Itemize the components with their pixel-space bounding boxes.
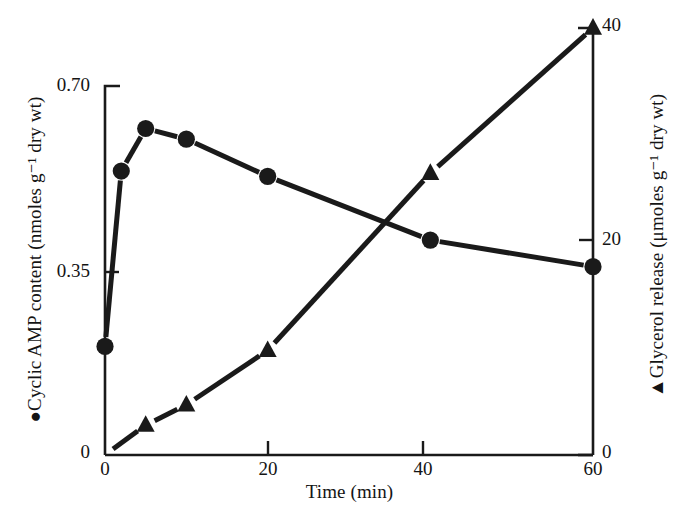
data-point-triangle xyxy=(421,163,439,180)
plot-area xyxy=(0,0,673,521)
data-point-circle xyxy=(137,120,154,137)
data-point-triangle xyxy=(584,18,602,35)
data-point-circle xyxy=(96,338,113,355)
data-point-triangle xyxy=(259,340,277,357)
series-segment xyxy=(113,431,138,449)
data-point-triangle xyxy=(137,415,155,432)
series-segment xyxy=(126,137,141,163)
y-left-tick-label-035: 0.35 xyxy=(18,260,90,282)
y-right-tick-label-20: 20 xyxy=(602,228,662,250)
data-point-circle xyxy=(178,131,195,148)
data-series-layer xyxy=(96,18,602,449)
series-segment xyxy=(155,409,178,420)
series-cyclic-amp xyxy=(96,120,601,355)
data-point-circle xyxy=(259,168,276,185)
series-glycerol-release xyxy=(113,18,602,449)
chart-figure: ●Cyclic AMP content (nmoles g⁻¹ dry wt) … xyxy=(0,0,673,521)
x-tick-label-0: 0 xyxy=(75,458,135,480)
series-segment xyxy=(438,35,586,167)
y-axis-right-spine xyxy=(578,28,593,455)
x-tick-label-40: 40 xyxy=(393,458,453,480)
x-axis-title: Time (min) xyxy=(105,481,594,503)
series-segment xyxy=(195,356,260,399)
y-left-tick-label-070: 0.70 xyxy=(18,74,90,96)
x-tick-label-60: 60 xyxy=(563,458,623,480)
data-point-circle xyxy=(113,162,130,179)
data-point-circle xyxy=(584,258,601,275)
series-segment xyxy=(106,180,121,336)
series-segment xyxy=(274,181,423,343)
series-segment xyxy=(440,242,584,266)
x-tick-label-20: 20 xyxy=(238,458,298,480)
series-segment xyxy=(155,131,177,137)
series-segment xyxy=(195,143,259,172)
y-right-tick-label-40: 40 xyxy=(602,14,662,36)
data-point-circle xyxy=(422,232,439,249)
data-point-triangle xyxy=(177,395,195,412)
